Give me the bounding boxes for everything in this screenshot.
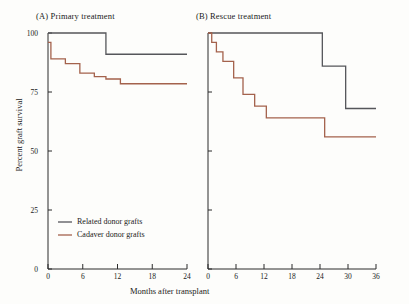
panel-b-x-tick-0: 0	[198, 272, 218, 281]
panel-b-x-tick-30: 30	[338, 272, 358, 281]
panel-a-x-tick-0: 0	[38, 272, 58, 281]
chart-canvas	[0, 0, 409, 304]
y-tick-label-50: 50	[10, 147, 38, 156]
curve-panel-a-cadaver	[48, 42, 187, 83]
panel-a-title: (A) Primary treatment	[36, 11, 115, 21]
curve-panel-b-cadaver	[208, 33, 376, 137]
y-tick-label-75: 75	[10, 88, 38, 97]
panel-b-x-tick-6: 6	[226, 272, 246, 281]
y-tick-label-25: 25	[10, 206, 38, 215]
panel-b-x-tick-12: 12	[254, 272, 274, 281]
x-axis-title: Months after transplant	[130, 286, 209, 296]
panel-a-x-tick-18: 18	[142, 272, 162, 281]
panel-b-x-tick-24: 24	[310, 272, 330, 281]
y-tick-label-100: 100	[10, 29, 38, 38]
legend-label-cadaver: Cadaver donor grafts	[77, 230, 145, 239]
panel-b-title: (B) Rescue treatment	[196, 11, 271, 21]
panel-a-x-tick-6: 6	[73, 272, 93, 281]
panel-b-x-tick-36: 36	[366, 272, 386, 281]
data-curves	[48, 33, 376, 137]
curve-panel-a-related	[48, 33, 187, 54]
panel-b-x-tick-18: 18	[282, 272, 302, 281]
panel-a-x-tick-12: 12	[108, 272, 128, 281]
panel-a-x-tick-24: 24	[177, 272, 197, 281]
y-tick-label-0: 0	[10, 265, 38, 274]
legend-label-related: Related donor grafts	[77, 217, 142, 226]
figure-container: (A) Primary treatment (B) Rescue treatme…	[0, 0, 409, 304]
